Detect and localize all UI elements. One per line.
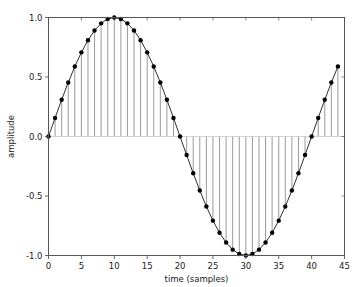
data-point-marker [211,218,215,222]
x-axis-label: time (samples) [165,274,229,284]
data-point-marker [309,134,313,138]
data-point-marker [171,116,175,120]
data-point-marker [145,50,149,54]
data-point-marker [316,116,320,120]
y-tick-label: 0.0 [29,132,43,142]
data-point-marker [59,98,63,102]
data-point-marker [86,38,90,42]
data-point-marker [217,231,221,235]
y-tick-label: -0.5 [26,191,43,201]
data-point-marker [138,38,142,42]
data-point-marker [184,153,188,157]
data-point-marker [204,204,208,208]
data-point-marker [125,21,129,25]
x-tick-label: 45 [339,261,350,271]
data-point-marker [296,171,300,175]
data-point-marker [323,98,327,102]
data-point-marker [263,240,267,244]
figure-canvas: 051015202530354045 -1.0-0.50.00.51.0 tim… [0,0,363,287]
data-point-marker [132,28,136,32]
data-point-marker [230,247,234,251]
data-point-marker [198,188,202,192]
data-point-marker [191,171,195,175]
data-point-marker [178,134,182,138]
data-point-marker [303,153,307,157]
data-point-marker [257,247,261,251]
data-point-marker [73,64,77,68]
data-point-marker [329,80,333,84]
y-axis-label: amplitude [6,115,16,158]
y-tick-label: 1.0 [29,13,43,23]
data-point-marker [224,240,228,244]
data-point-marker [92,28,96,32]
x-tick-label: 10 [109,261,120,271]
x-tick-label: 30 [240,261,251,271]
data-point-marker [336,64,340,68]
data-point-marker [79,50,83,54]
x-tick-label: 0 [46,261,51,271]
data-point-marker [158,80,162,84]
data-point-marker [283,204,287,208]
data-point-marker [270,231,274,235]
x-tick-label: 35 [273,261,284,271]
y-tick-label: -1.0 [26,251,43,261]
data-point-marker [99,21,103,25]
y-tick-label: 0.5 [29,72,43,82]
data-point-marker [277,218,281,222]
x-tick-label: 5 [79,261,84,271]
data-point-marker [53,116,57,120]
data-point-marker [66,80,70,84]
stem-plot: 051015202530354045 -1.0-0.50.00.51.0 tim… [0,0,363,287]
x-tick-label: 25 [208,261,219,271]
data-point-marker [290,188,294,192]
data-point-marker [152,64,156,68]
x-tick-label: 40 [306,261,317,271]
data-point-marker [165,98,169,102]
x-tick-label: 15 [142,261,153,271]
figure-background [0,0,363,287]
x-tick-label: 20 [175,261,186,271]
